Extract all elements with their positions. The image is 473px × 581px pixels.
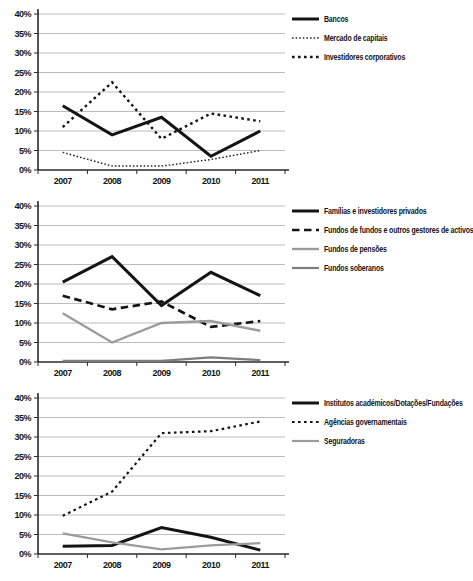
legend-entry: Fundos soberanos [292,258,446,277]
y-axis-label: 5% [19,146,32,156]
chart-3-legend: Institutos académicos/Dotações/Fundações… [292,388,446,580]
y-axis-label: 20% [14,87,31,97]
legend-line-sample-icon [292,225,319,235]
x-axis-label: 2009 [152,176,171,186]
y-axis-label: 0% [19,549,32,559]
y-axis-label: 30% [14,240,31,250]
legend-label: Seguradoras [324,436,365,446]
chart-block-2: 40%35%30%25%20%15%10%5%0%200720082009201… [0,196,446,388]
y-axis-label: 5% [19,530,32,540]
y-axis-label: 30% [14,432,31,442]
x-axis-label: 2011 [252,368,270,378]
legend-entry: Famílias e investidores privados [292,201,446,220]
legend-entry: Bancos [292,9,446,28]
legend-entry: Fundos de fundos e outros gestores de ac… [292,220,446,239]
chart-block-3: 40%35%30%25%20%15%10%5%0%200720082009201… [0,388,446,580]
chart-1-legend: BancosMercado de capitaisInvestidores co… [292,4,446,196]
series-line-2 [63,82,261,139]
x-axis-label: 2009 [152,368,171,378]
y-axis-label: 25% [14,452,31,462]
legend-entry: Investidores corporativos [292,47,446,66]
x-axis-label: 2010 [202,560,221,570]
series-line-1 [63,151,261,167]
chart-3-plot: 40%35%30%25%20%15%10%5%0%200720082009201… [0,388,292,580]
series-line-1 [63,421,261,515]
y-axis-label: 10% [14,126,31,136]
legend-line-sample-icon [292,14,319,24]
y-axis-label: 20% [14,471,31,481]
x-axis-label: 2007 [54,560,73,570]
legend-label: Bancos [324,14,348,24]
legend-line-sample-icon [292,52,319,62]
legend-entry: Seguradoras [292,431,446,450]
legend-line-sample-icon [292,417,319,427]
y-axis-label: 15% [14,107,31,117]
y-axis-label: 5% [19,338,32,348]
chart-block-1: 40%35%30%25%20%15%10%5%0%200720082009201… [0,4,446,196]
legend-label: Institutos académicos/Dotações/Fundações [324,398,463,408]
chart-2-legend: Famílias e investidores privadosFundos d… [292,196,446,388]
y-axis-label: 35% [14,29,31,39]
legend-entry: Institutos académicos/Dotações/Fundações [292,393,446,412]
series-line-2 [63,313,261,342]
legend-line-sample-icon [292,206,319,216]
x-axis-label: 2010 [202,368,221,378]
chart-1-plot: 40%35%30%25%20%15%10%5%0%200720082009201… [0,4,292,196]
chart-2-plot: 40%35%30%25%20%15%10%5%0%200720082009201… [0,196,292,388]
y-axis-label: 25% [14,68,31,78]
legend-line-sample-icon [292,244,319,254]
x-axis-label: 2011 [252,560,270,570]
legend-entry: Mercado de capitais [292,28,446,47]
y-axis-label: 0% [19,165,32,175]
legend-label: Fundos soberanos [324,263,384,273]
x-axis-label: 2008 [103,368,122,378]
legend-line-sample-icon [292,436,319,446]
y-axis-label: 10% [14,510,31,520]
legend-line-sample-icon [292,263,319,273]
y-axis-label: 15% [14,299,31,309]
y-axis-label: 40% [14,201,31,211]
y-axis-label: 10% [14,318,31,328]
legend-line-sample-icon [292,33,319,43]
x-axis-label: 2009 [152,560,171,570]
legend-label: Fundos de pensões [324,244,387,254]
legend-label: Mercado de capitais [324,33,388,43]
y-axis-label: 40% [14,9,31,19]
y-axis-label: 0% [19,357,32,367]
legend-label: Fundos de fundos e outros gestores de ac… [324,225,473,235]
x-axis-label: 2010 [202,176,221,186]
legend-entry: Fundos de pensões [292,239,446,258]
y-axis-label: 35% [14,221,31,231]
y-axis-label: 25% [14,260,31,270]
y-axis-label: 30% [14,48,31,58]
y-axis-label: 35% [14,413,31,423]
legend-line-sample-icon [292,398,319,408]
y-axis-label: 20% [14,279,31,289]
legend-entry: Agências governamentais [292,412,446,431]
x-axis-label: 2011 [252,176,270,186]
legend-label: Agências governamentais [324,417,407,427]
x-axis-label: 2008 [103,176,122,186]
y-axis-label: 15% [14,491,31,501]
legend-label: Investidores corporativos [324,52,405,62]
series-line-3 [63,357,261,361]
legend-label: Famílias e investidores privados [324,206,426,216]
x-axis-label: 2007 [54,176,73,186]
x-axis-label: 2007 [54,368,73,378]
x-axis-label: 2008 [103,560,122,570]
y-axis-label: 40% [14,393,31,403]
